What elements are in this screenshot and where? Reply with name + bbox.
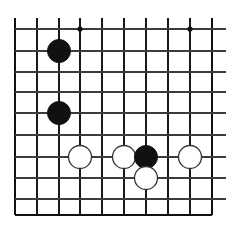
hoshi-top-left — [77, 26, 82, 31]
go-board-diagram — [0, 0, 228, 235]
board-background — [0, 0, 228, 235]
black-stone-1 — [48, 40, 71, 63]
black-stone-3 — [135, 146, 158, 169]
white-stone-1 — [69, 146, 92, 169]
hoshi-top-right — [187, 26, 192, 31]
white-stone-4 — [179, 146, 202, 169]
white-stone-3 — [135, 167, 158, 190]
white-stone-2 — [113, 146, 136, 169]
go-board-canvas — [0, 0, 228, 235]
black-stone-2 — [48, 102, 71, 125]
